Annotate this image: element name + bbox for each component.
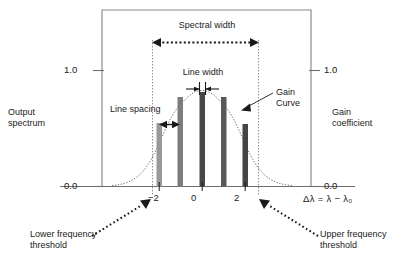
- right-tick-1: 1.0: [324, 64, 337, 75]
- spectrum-bar: [243, 124, 249, 187]
- x-axis-label: Δλ = λ − λ₀: [303, 193, 353, 204]
- gain-curve-label: Gain Curve: [276, 87, 300, 109]
- spectral-width-arrow: [152, 38, 259, 47]
- right-tick-0: 0.0: [324, 180, 337, 191]
- figure-root: Spectral width Line width Line spacing G…: [0, 0, 403, 263]
- left-tick-1: 1.0: [64, 64, 77, 75]
- left-tick-0: 0.0: [64, 180, 77, 191]
- x-tick-0: 0: [191, 192, 213, 203]
- x-tick-2: 2: [234, 192, 256, 203]
- line-spacing-label: Line spacing: [110, 104, 161, 115]
- left-axis-label: Output spectrum: [8, 107, 45, 129]
- right-axis-label: Gain coefficient: [332, 107, 372, 129]
- diagram-canvas: [0, 0, 403, 263]
- line-width-label: Line width: [163, 67, 243, 78]
- line-spacing-arrow: [159, 121, 180, 128]
- spectrum-bar: [178, 97, 184, 187]
- spectrum-bars: [157, 92, 249, 187]
- spectral-width-label: Spectral width: [146, 20, 268, 31]
- upper-threshold-label: Upper frequency threshold: [320, 229, 387, 251]
- spectrum-bar: [200, 92, 206, 187]
- x-tick-minus2: −2: [148, 192, 170, 203]
- spectrum-bar: [221, 97, 227, 187]
- lower-threshold-label: Lower frequency threshold: [30, 229, 97, 251]
- upper-threshold-leader: [259, 199, 318, 236]
- spectrum-bar: [157, 123, 163, 187]
- lower-threshold-leader: [92, 199, 151, 236]
- gain-curve-leader: [241, 93, 273, 112]
